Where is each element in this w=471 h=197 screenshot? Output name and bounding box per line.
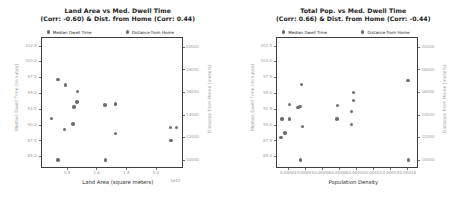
data-point xyxy=(300,83,303,86)
data-point xyxy=(114,132,117,135)
y-tick-mark xyxy=(274,93,276,94)
x-tick-label: 1.0 xyxy=(83,171,111,175)
legend-marker-icon xyxy=(282,30,285,33)
y-tick-label: 100.0 xyxy=(250,59,272,63)
data-point xyxy=(296,106,299,109)
secondary-y-tick-mark xyxy=(183,115,185,116)
legend-item-distance-from-home[interactable]: Distance from Home xyxy=(126,30,174,35)
secondary-y-tick-label: 10000 xyxy=(422,158,435,162)
y-tick-label: 92.5 xyxy=(250,107,272,111)
y-tick-mark xyxy=(39,46,41,47)
x-axis-label-left: Land Area (square meters) xyxy=(0,179,236,185)
data-point xyxy=(283,131,286,134)
y-tick-label: 100.0 xyxy=(15,59,37,63)
legend-label: Median Dwell Time xyxy=(288,30,327,35)
y-tick-label: 97.5 xyxy=(15,75,37,79)
secondary-y-tick-mark xyxy=(418,160,420,161)
y-tick-label: 95.0 xyxy=(15,91,37,95)
x-tick-label: 2.0 xyxy=(142,171,170,175)
legend-marker-icon xyxy=(47,30,50,33)
chart-title-left-line1: Land Area vs Med. Dwell Time xyxy=(65,7,171,14)
legend-label: Distance from Home xyxy=(367,30,409,35)
y-tick-mark xyxy=(39,109,41,110)
data-point xyxy=(71,122,74,125)
y-tick-label: 92.5 xyxy=(15,107,37,111)
secondary-y-tick-label: 20000 xyxy=(186,45,199,49)
y-tick-mark xyxy=(39,93,41,94)
legend-label: Distance from Home xyxy=(132,30,174,35)
data-point xyxy=(75,100,78,103)
data-point xyxy=(63,128,66,131)
chart-title-right-line1: Total Pop. vs Med. Dwell Time xyxy=(300,7,406,14)
x-axis-label-right: Population Density xyxy=(236,179,471,185)
secondary-y-tick-mark xyxy=(183,137,185,138)
x-tick-label: 0.00016 xyxy=(394,171,422,175)
y-tick-mark xyxy=(274,125,276,126)
secondary-y-tick-label: 14000 xyxy=(422,113,435,117)
plot-area-left xyxy=(41,37,183,168)
secondary-y-tick-label: 14000 xyxy=(186,113,199,117)
secondary-y-tick-mark xyxy=(183,47,185,48)
secondary-y-axis-label-right: Distance from Home (meters) xyxy=(442,64,447,133)
data-point xyxy=(279,136,282,139)
secondary-y-tick-label: 18000 xyxy=(186,68,199,72)
x-tick-label: 1.5 xyxy=(112,171,140,175)
y-tick-label: 95.0 xyxy=(250,91,272,95)
y-tick-mark xyxy=(39,61,41,62)
y-tick-mark xyxy=(274,109,276,110)
legend-marker-icon xyxy=(126,30,129,33)
y-tick-label: 90.0 xyxy=(250,123,272,127)
chart-title-left: Land Area vs Med. Dwell Time (Corr: -0.6… xyxy=(0,7,236,23)
legend-item-distance-from-home[interactable]: Distance from Home xyxy=(361,30,409,35)
data-point xyxy=(175,126,178,129)
y-tick-mark xyxy=(39,156,41,157)
data-point xyxy=(280,117,283,120)
y-tick-mark xyxy=(39,125,41,126)
y-axis-label-left: Median Dwell Time (minutes) xyxy=(14,63,19,130)
y-tick-label: 85.0 xyxy=(250,154,272,158)
y-tick-label: 102.5 xyxy=(15,44,37,48)
secondary-y-tick-mark xyxy=(418,47,420,48)
y-tick-mark xyxy=(274,140,276,141)
x-tick-label: 0.5 xyxy=(53,171,81,175)
legend-marker-icon xyxy=(361,30,364,33)
data-point xyxy=(72,105,75,108)
data-point xyxy=(336,104,339,107)
data-point xyxy=(407,158,410,161)
y-tick-mark xyxy=(274,46,276,47)
data-point xyxy=(114,102,117,105)
data-point xyxy=(335,117,338,120)
y-tick-label: 97.5 xyxy=(250,75,272,79)
chart-panel-right: Total Pop. vs Med. Dwell Time (Corr: 0.6… xyxy=(236,0,471,197)
data-point xyxy=(169,126,172,129)
secondary-y-tick-mark xyxy=(183,92,185,93)
data-point xyxy=(50,117,53,120)
data-point xyxy=(299,158,302,161)
data-point xyxy=(350,110,353,113)
chart-title-left-line2: (Corr: -0.60) & Dist. from Home (Corr: 0… xyxy=(0,15,236,23)
secondary-y-tick-label: 12000 xyxy=(186,135,199,139)
y-tick-mark xyxy=(274,156,276,157)
secondary-y-axis-label-left: Distance from Home (meters) xyxy=(207,64,212,133)
secondary-y-tick-mark xyxy=(418,115,420,116)
data-point xyxy=(104,158,107,161)
data-point xyxy=(56,78,59,81)
data-point xyxy=(406,79,409,82)
secondary-y-tick-label: 16000 xyxy=(422,90,435,94)
data-point xyxy=(76,90,79,93)
data-point xyxy=(64,83,67,86)
data-point xyxy=(352,91,355,94)
legend-label: Median Dwell Time xyxy=(53,30,92,35)
secondary-y-tick-mark xyxy=(418,92,420,93)
data-point xyxy=(56,158,59,161)
legend-item-median-dwell-time[interactable]: Median Dwell Time xyxy=(47,30,92,35)
data-point xyxy=(301,125,304,128)
y-tick-mark xyxy=(39,77,41,78)
secondary-y-tick-label: 16000 xyxy=(186,90,199,94)
data-point xyxy=(350,123,353,126)
y-tick-mark xyxy=(274,77,276,78)
secondary-y-tick-mark xyxy=(183,69,185,70)
y-tick-mark xyxy=(39,140,41,141)
legend-item-median-dwell-time[interactable]: Median Dwell Time xyxy=(282,30,327,35)
secondary-y-tick-label: 18000 xyxy=(422,68,435,72)
